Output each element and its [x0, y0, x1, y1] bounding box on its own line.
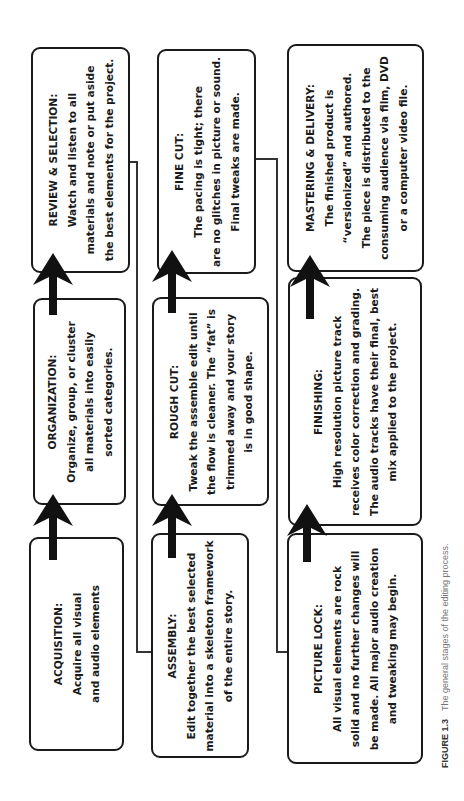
stage-line: is in good shape. — [238, 308, 257, 494]
stage-assembly: ASSEMBLY: Edit together the best selecte… — [151, 533, 249, 758]
stage-line: all materials into easily — [80, 321, 99, 483]
stage-line: and audio elements — [86, 585, 105, 703]
stage-title: REVIEW & SELECTION: — [44, 59, 63, 262]
stage-title: ASSEMBLY: — [163, 540, 182, 751]
stage-text: REVIEW & SELECTION: Watch and listen to … — [44, 59, 118, 262]
stage-title: ROUGH CUT: — [164, 308, 183, 494]
stage-line: Watch and listen to all — [62, 59, 81, 262]
stage-review-selection: REVIEW & SELECTION: Watch and listen to … — [31, 47, 130, 273]
stage-title: FINE CUT: — [170, 56, 189, 266]
stage-line: and tweaking may begin. — [383, 547, 402, 750]
stage-title: ORGANIZATION: — [43, 321, 62, 483]
stage-text: ACQUISITION: Acquire all visual and audi… — [49, 585, 105, 703]
stage-text: ORGANIZATION: Organize, group, or cluste… — [43, 321, 117, 483]
stage-line: Organize, group, or cluster — [61, 321, 80, 483]
arrow-up-icon — [151, 250, 193, 313]
stage-line: the best elements for the project. — [99, 59, 118, 262]
stage-line: material into a skeleton framework — [200, 540, 219, 751]
figure-caption: FIGURE 1.3The general stages of the edit… — [440, 543, 450, 768]
stage-line: solid and no further changes will — [346, 547, 365, 750]
stage-line: Edit together the best selected — [182, 540, 201, 751]
stage-line: trimmed away and your story — [220, 308, 239, 494]
stage-text: ASSEMBLY: Edit together the best selecte… — [163, 540, 237, 751]
stage-line: The pacing is tight; there — [188, 56, 207, 266]
stage-line: be made. All major audio creation — [364, 547, 383, 750]
stage-line: The piece is distributed to the — [356, 56, 375, 260]
arrow-up-icon — [151, 494, 193, 558]
stage-line: All visual elements are rock — [327, 547, 346, 750]
stage-rough-cut: ROUGH CUT: Tweak the assemble edit until… — [152, 297, 269, 506]
stage-line: High resolution picture track — [327, 287, 346, 515]
stage-text: ROUGH CUT: Tweak the assemble edit until… — [164, 308, 257, 494]
stage-text: FINE CUT: The pacing is tight; there are… — [170, 56, 244, 266]
figure-caption-text: The general stages of the editing proces… — [440, 543, 450, 711]
stage-text: PICTURE LOCK: All visual elements are ro… — [309, 547, 402, 750]
connector-review-to-assembly-h2 — [136, 651, 152, 653]
stage-line: of the entire story. — [219, 540, 238, 751]
arrow-up-icon — [32, 253, 74, 315]
figure-label: FIGURE 1.3 — [440, 719, 450, 768]
stage-line: Final tweaks are made. — [225, 56, 244, 266]
stage-line: or a computer video file. — [393, 56, 412, 260]
stage-title: MASTERING & DELIVERY: — [300, 56, 319, 260]
connector-finecut-to-picturelock-v — [276, 158, 278, 652]
stage-fine-cut: FINE CUT: The pacing is tight; there are… — [157, 49, 256, 274]
stage-text: FINISHING: High resolution picture track… — [309, 287, 402, 515]
stage-line: The finished product is — [319, 56, 338, 260]
stage-acquisition: ACQUISITION: Acquire all visual and audi… — [29, 537, 124, 751]
stage-organization: ORGANIZATION: Organize, group, or cluste… — [33, 298, 126, 505]
stage-line: Tweak the assemble edit until — [183, 308, 202, 494]
stage-text: MASTERING & DELIVERY: The finished produ… — [300, 56, 411, 260]
arrow-up-icon — [32, 494, 74, 560]
stage-line: consuming audience via film, DVD — [374, 56, 393, 260]
stage-line: are no glitches in picture or sound. — [207, 56, 226, 266]
stage-mastering-delivery: MASTERING & DELIVERY: The finished produ… — [287, 44, 424, 272]
stage-line: “versionized” and authored. — [337, 56, 356, 260]
stage-line: receives color correction and grading. — [346, 287, 365, 515]
stage-line: mix applied to the project. — [383, 287, 402, 515]
stage-line: Acquire all visual — [67, 585, 86, 703]
stage-line: materials and note or put aside — [81, 59, 100, 262]
stage-title: FINISHING: — [309, 287, 328, 515]
connector-finecut-to-picturelock-h1 — [255, 158, 277, 160]
stage-title: PICTURE LOCK: — [309, 547, 328, 750]
arrow-up-icon — [286, 504, 328, 562]
arrow-up-icon — [289, 255, 331, 319]
stage-line: sorted categories. — [98, 321, 117, 483]
stage-line: The audio tracks have their final, best — [364, 287, 383, 515]
stage-line: the flow is cleaner. The “fat” is — [201, 308, 220, 494]
stage-title: ACQUISITION: — [49, 585, 68, 703]
stage-picture-lock: PICTURE LOCK: All visual elements are ro… — [287, 533, 423, 764]
connector-review-to-assembly-v — [136, 161, 138, 652]
